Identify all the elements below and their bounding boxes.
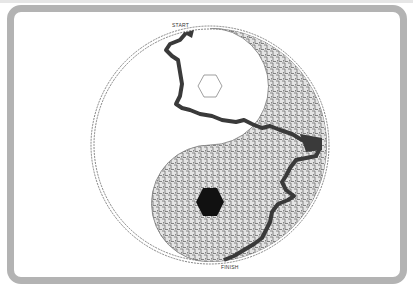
finish-label: FINISH: [221, 264, 239, 270]
yin-yang-maze: [0, 0, 413, 292]
white-dot: [198, 75, 222, 97]
start-label: START: [172, 22, 189, 28]
